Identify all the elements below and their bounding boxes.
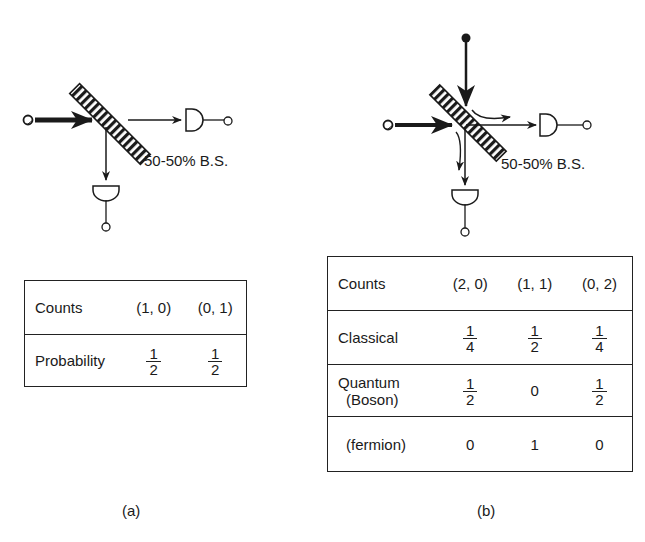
fraction: 12 (592, 376, 606, 407)
cell: 12 (567, 365, 632, 417)
table-row: Classical 14 12 14 (328, 311, 633, 365)
cell: 12 (438, 365, 503, 417)
row-label-line1: Quantum (338, 374, 438, 391)
beam-splitter-label-b: 50-50% B.S. (501, 155, 585, 172)
row-label: Probability (25, 335, 124, 387)
detector-bottom-output-icon (102, 223, 110, 231)
table-row: Probability 12 12 (25, 335, 247, 387)
detector-bottom-output-icon (461, 228, 469, 236)
probability-table-b: Counts (2, 0) (1, 1) (0, 2) Classical 14… (327, 256, 633, 472)
row-label: Quantum (Boson) (328, 365, 439, 417)
header-col: (1, 1) (503, 257, 568, 311)
beam-splitter-label-a: 50-50% B.S. (144, 152, 228, 169)
cell: 12 (184, 335, 246, 387)
fraction: 12 (463, 376, 477, 407)
header-col: (1, 0) (123, 281, 184, 335)
photon-source-icon (24, 116, 33, 125)
cell: 12 (123, 335, 184, 387)
beam-splitter-icon (70, 84, 151, 165)
curved-beam-down-arrow (456, 132, 460, 170)
fraction: 12 (528, 323, 542, 354)
probability-table-a: Counts (1, 0) (0, 1) Probability 12 12 (24, 280, 247, 387)
cell: 12 (503, 311, 568, 365)
cell: 0 (567, 417, 632, 472)
header-col: (0, 2) (567, 257, 632, 311)
caption-a: (a) (122, 502, 140, 519)
row-label-line2: (Boson) (338, 391, 438, 408)
cell: 0 (438, 417, 503, 472)
cell: 1 (503, 417, 568, 472)
curved-beam-right-arrow (472, 110, 510, 118)
header-col: (2, 0) (438, 257, 503, 311)
header-col: (0, 1) (184, 281, 246, 335)
table-row: Quantum (Boson) 12 0 12 (328, 365, 633, 417)
panel-b-setup (384, 34, 592, 237)
table-header-row: Counts (1, 0) (0, 1) (25, 281, 247, 335)
header-label: Counts (25, 281, 124, 335)
table-row: (fermion) 0 1 0 (328, 417, 633, 472)
table-header-row: Counts (2, 0) (1, 1) (0, 2) (328, 257, 633, 311)
cell: 14 (438, 311, 503, 365)
cell: 14 (567, 311, 632, 365)
detector-right-output-icon (583, 121, 591, 129)
detector-bottom-icon (452, 190, 478, 205)
detector-bottom-icon (93, 186, 119, 201)
detector-right-output-icon (224, 117, 232, 125)
photon-source-top-icon (462, 34, 471, 43)
detector-right-icon (186, 109, 203, 131)
header-label: Counts (328, 257, 439, 311)
caption-b: (b) (477, 502, 495, 519)
row-label: Classical (328, 311, 439, 365)
detector-right-icon (540, 114, 557, 136)
cell: 0 (503, 365, 568, 417)
fraction: 14 (463, 323, 477, 354)
fraction: 12 (208, 346, 222, 377)
photon-source-left-icon (384, 121, 393, 130)
fraction: 12 (146, 346, 160, 377)
row-label: (fermion) (328, 417, 439, 472)
fraction: 14 (592, 323, 606, 354)
